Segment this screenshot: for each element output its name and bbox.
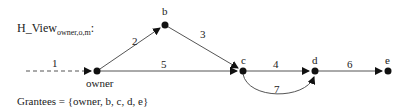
title-main: H_View <box>17 21 57 35</box>
edge-label-7: 7 <box>274 84 280 95</box>
grant-graph-diagram: H_Viewowner,o,m: owner b c d e 1 2 3 5 4… <box>0 0 413 111</box>
edge-label-4: 4 <box>273 59 279 70</box>
node-label-e: e <box>385 55 390 66</box>
edge-label-1: 1 <box>52 58 58 69</box>
title-subscript: owner,o,m <box>57 28 91 37</box>
edge-label-2: 2 <box>132 36 138 47</box>
node-b <box>162 22 169 29</box>
node-owner <box>94 68 101 75</box>
node-label-b: b <box>162 6 168 17</box>
grantees-text: Grantees = {owner, b, c, d, e} <box>17 96 148 107</box>
node-label-d: d <box>312 55 318 66</box>
edge-label-6: 6 <box>347 59 353 70</box>
node-label-c: c <box>241 55 246 66</box>
node-label-owner: owner <box>86 78 114 89</box>
node-d <box>312 68 319 75</box>
edge-2 <box>97 28 160 71</box>
title-suffix: : <box>91 21 94 35</box>
edge-label-5: 5 <box>161 59 167 70</box>
node-e <box>385 68 392 75</box>
view-title: H_Viewowner,o,m: <box>17 23 94 38</box>
edge-label-3: 3 <box>200 29 206 40</box>
node-c <box>240 68 247 75</box>
